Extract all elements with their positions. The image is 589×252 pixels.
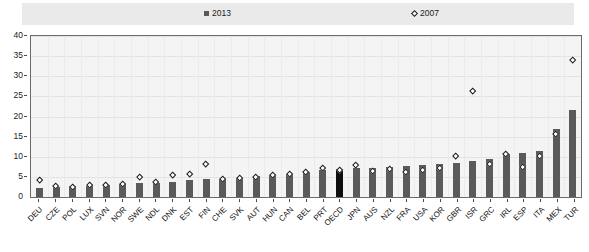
y-axis-tick xyxy=(24,116,27,117)
x-axis-tick xyxy=(339,199,340,202)
bar-column[interactable] xyxy=(548,36,565,197)
diamond-marker-2007[interactable] xyxy=(469,88,477,96)
x-axis-tick-label: FIN xyxy=(197,205,212,220)
bar-column[interactable] xyxy=(64,36,81,197)
bar-column[interactable] xyxy=(565,36,582,197)
y-axis-tick xyxy=(24,55,27,56)
x-axis-tick xyxy=(440,199,441,202)
bar-2013[interactable] xyxy=(186,180,193,197)
diamond-marker-2007[interactable] xyxy=(136,174,144,182)
bar-column[interactable] xyxy=(281,36,298,197)
bar-column[interactable] xyxy=(348,36,365,197)
bar-column[interactable] xyxy=(314,36,331,197)
x-axis-tick-label: AUT xyxy=(244,205,262,223)
diamond-marker-2007[interactable] xyxy=(452,152,460,160)
x-axis-tick xyxy=(390,199,391,202)
x-axis-tick xyxy=(523,199,524,202)
bar-2013[interactable] xyxy=(453,163,460,197)
x-axis-tick-label: CZE xyxy=(44,205,62,223)
bar-column[interactable] xyxy=(431,36,448,197)
square-marker-icon xyxy=(204,11,209,16)
bar-column[interactable] xyxy=(364,36,381,197)
bar-column[interactable] xyxy=(164,36,181,197)
x-axis-tick xyxy=(406,199,407,202)
bar-2013[interactable] xyxy=(136,183,143,197)
y-axis-tick xyxy=(24,136,27,137)
bar-column[interactable] xyxy=(514,36,531,197)
bar-column[interactable] xyxy=(114,36,131,197)
x-axis-tick-label: NOR xyxy=(109,205,128,224)
x-axis-tick-label: EST xyxy=(178,205,195,222)
diamond-marker-2007[interactable] xyxy=(569,56,577,64)
bar-column[interactable] xyxy=(264,36,281,197)
bar-column[interactable] xyxy=(214,36,231,197)
y-axis-tick-label: 20 xyxy=(14,111,23,120)
bar-column[interactable] xyxy=(31,36,48,197)
bar-column[interactable] xyxy=(331,36,348,197)
y-axis-tick xyxy=(24,35,27,36)
x-axis-tick xyxy=(540,199,541,202)
bar-column[interactable] xyxy=(298,36,315,197)
bar-2013[interactable] xyxy=(569,110,576,197)
bar-2013[interactable] xyxy=(353,168,360,197)
diamond-marker-2007[interactable] xyxy=(186,171,194,179)
y-axis-tick-label: 0 xyxy=(18,192,23,201)
bar-series-group xyxy=(31,36,581,197)
bar-column[interactable] xyxy=(131,36,148,197)
bar-column[interactable] xyxy=(448,36,465,197)
x-axis-tick xyxy=(423,199,424,202)
legend-item-2007: 2007 xyxy=(412,8,439,18)
bar-column[interactable] xyxy=(231,36,248,197)
bar-2013[interactable] xyxy=(36,188,43,197)
x-axis-tick xyxy=(172,199,173,202)
x-axis-tick xyxy=(155,199,156,202)
bar-column[interactable] xyxy=(398,36,415,197)
y-axis-tick-label: 10 xyxy=(14,151,23,160)
x-axis-tick xyxy=(457,199,458,202)
bar-column[interactable] xyxy=(481,36,498,197)
chart-root: 2013 2007 0510152025303540 DEUCZEPOLLUXS… xyxy=(0,0,589,252)
y-axis-tick xyxy=(24,95,27,96)
bar-column[interactable] xyxy=(148,36,165,197)
bar-2013[interactable] xyxy=(203,179,210,197)
diamond-marker-2007[interactable] xyxy=(169,171,177,179)
bar-column[interactable] xyxy=(248,36,265,197)
bar-column[interactable] xyxy=(498,36,515,197)
bar-column[interactable] xyxy=(198,36,215,197)
x-axis-tick-label: JPN xyxy=(345,205,362,222)
x-axis-tick-label: ISR xyxy=(464,205,480,221)
x-axis-tick-label: SVK xyxy=(228,205,246,223)
bar-2013[interactable] xyxy=(169,182,176,197)
bar-2013[interactable] xyxy=(553,129,560,197)
y-axis-tick-label: 35 xyxy=(14,51,23,60)
x-axis-tick xyxy=(574,199,575,202)
y-axis-tick-label: 40 xyxy=(14,31,23,40)
x-axis-tick-label: GBR xyxy=(444,205,463,224)
x-axis: DEUCZEPOLLUXSVNNORSWENDLDNKESTFINCHESVKA… xyxy=(30,199,582,252)
y-axis-tick xyxy=(24,176,27,177)
x-axis-tick xyxy=(72,199,73,202)
x-axis-tick xyxy=(490,199,491,202)
bar-column[interactable] xyxy=(531,36,548,197)
bar-column[interactable] xyxy=(48,36,65,197)
x-axis-tick-label: GRC xyxy=(477,205,496,224)
bar-column[interactable] xyxy=(464,36,481,197)
diamond-marker-2007[interactable] xyxy=(36,176,44,184)
chart-legend: 2013 2007 xyxy=(22,3,574,25)
bar-column[interactable] xyxy=(181,36,198,197)
x-axis-tick xyxy=(356,199,357,202)
bar-column[interactable] xyxy=(381,36,398,197)
x-axis-tick-label: CAN xyxy=(277,205,295,223)
bar-2013[interactable] xyxy=(469,161,476,197)
diamond-marker-2007[interactable] xyxy=(202,160,210,168)
bar-column[interactable] xyxy=(98,36,115,197)
x-axis-tick-label: SVN xyxy=(94,205,112,223)
bar-column[interactable] xyxy=(81,36,98,197)
bar-2013[interactable] xyxy=(519,153,526,197)
x-axis-tick-label: DEU xyxy=(26,205,44,223)
x-axis-tick-label: NZL xyxy=(379,205,396,222)
bar-2013[interactable] xyxy=(319,170,326,197)
bar-column[interactable] xyxy=(414,36,431,197)
bar-2013[interactable] xyxy=(503,154,510,197)
x-axis-tick xyxy=(289,199,290,202)
